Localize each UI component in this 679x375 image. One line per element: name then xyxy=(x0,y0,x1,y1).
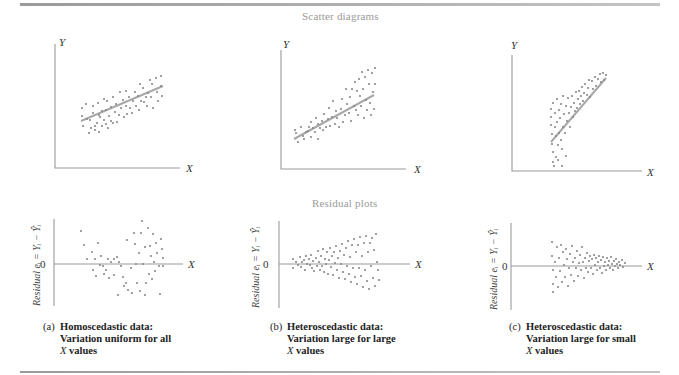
data-point xyxy=(322,248,324,250)
data-point xyxy=(621,259,623,261)
data-point xyxy=(365,99,367,101)
data-point xyxy=(325,263,327,265)
data-point xyxy=(336,269,338,271)
data-point xyxy=(578,262,580,264)
data-point xyxy=(371,237,373,239)
data-point xyxy=(295,261,297,263)
data-point xyxy=(593,254,595,256)
data-point xyxy=(373,108,375,110)
data-point xyxy=(325,126,327,128)
data-point xyxy=(369,242,371,244)
data-point xyxy=(366,280,368,282)
data-point xyxy=(558,109,560,111)
data-point xyxy=(327,118,329,120)
data-point xyxy=(137,95,139,97)
data-point xyxy=(569,126,571,128)
data-point xyxy=(607,264,609,266)
data-point xyxy=(331,255,333,257)
data-point xyxy=(102,265,104,267)
data-point xyxy=(557,286,559,288)
data-point xyxy=(552,283,554,285)
data-point xyxy=(319,269,321,271)
caption-a-line2: Variation uniform for all xyxy=(43,333,171,345)
data-point xyxy=(345,247,347,249)
data-point xyxy=(374,83,376,85)
data-point xyxy=(101,125,103,127)
residual-points-b xyxy=(292,233,380,290)
data-point xyxy=(328,259,330,261)
data-point xyxy=(114,111,116,113)
data-point xyxy=(585,267,587,269)
data-point xyxy=(307,130,309,132)
data-point xyxy=(595,257,597,259)
data-point xyxy=(103,98,105,100)
data-point xyxy=(566,120,568,122)
data-point xyxy=(602,72,604,74)
regression-line-a xyxy=(81,86,163,121)
data-point xyxy=(300,126,302,128)
data-point xyxy=(159,293,161,295)
axes-b xyxy=(281,50,406,169)
data-point xyxy=(142,87,144,89)
data-point xyxy=(603,265,605,267)
data-point xyxy=(363,242,365,244)
data-point xyxy=(341,243,343,245)
data-point xyxy=(94,125,96,127)
data-point xyxy=(315,257,317,259)
data-point xyxy=(131,112,133,114)
data-point xyxy=(328,107,330,109)
data-point xyxy=(555,276,557,278)
data-point xyxy=(575,267,577,269)
data-point xyxy=(562,251,564,253)
data-point xyxy=(595,85,597,87)
data-point xyxy=(317,123,319,125)
data-point xyxy=(317,138,319,140)
data-point xyxy=(323,271,325,273)
data-point xyxy=(346,265,348,267)
data-point xyxy=(377,269,379,271)
data-point xyxy=(144,294,146,296)
caption-b-line3: values xyxy=(293,345,324,356)
data-point xyxy=(587,271,589,273)
data-point xyxy=(348,112,350,114)
data-point xyxy=(82,125,84,127)
data-point xyxy=(567,97,569,99)
data-point xyxy=(94,258,96,260)
data-point xyxy=(594,264,596,266)
data-point xyxy=(129,107,131,109)
data-point xyxy=(555,135,557,137)
data-point xyxy=(571,245,573,247)
data-point xyxy=(350,281,352,283)
data-point xyxy=(557,159,559,161)
data-point xyxy=(582,100,584,102)
data-point xyxy=(574,257,576,259)
data-point xyxy=(127,289,129,291)
data-point xyxy=(378,279,380,281)
data-point xyxy=(559,270,561,272)
data-point xyxy=(306,263,308,265)
data-point xyxy=(579,103,581,105)
data-point xyxy=(335,110,337,112)
data-point xyxy=(120,265,122,267)
data-point xyxy=(119,91,121,93)
data-point xyxy=(350,120,352,122)
data-point xyxy=(622,266,624,268)
data-point xyxy=(576,250,578,252)
data-point xyxy=(598,255,600,257)
data-point xyxy=(592,273,594,275)
data-point xyxy=(589,255,591,257)
data-point xyxy=(601,272,603,274)
data-point xyxy=(556,246,558,248)
data-point xyxy=(86,118,88,120)
data-point xyxy=(160,75,162,77)
caption-c-line3: values xyxy=(532,345,563,356)
data-point xyxy=(316,265,318,267)
data-point xyxy=(354,81,356,83)
data-point xyxy=(582,261,584,263)
data-point xyxy=(360,105,362,107)
x-axis-label-residual-c: X xyxy=(646,260,655,272)
data-point xyxy=(139,83,141,85)
data-point xyxy=(372,277,374,279)
data-point xyxy=(339,250,341,252)
data-point xyxy=(374,285,376,287)
